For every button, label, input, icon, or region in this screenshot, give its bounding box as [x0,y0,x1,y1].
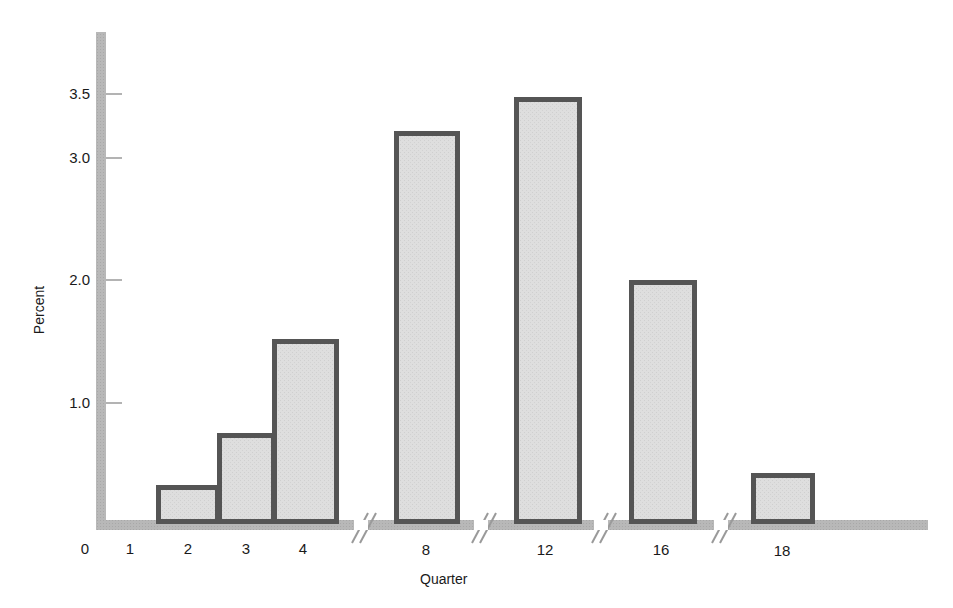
bar-chart: 1.0 2.0 3.0 3.5 Percent [0,0,953,608]
y-axis [96,32,106,530]
x-tick-label: 2 [184,540,192,557]
x-tick-label: 1 [126,540,134,557]
y-axis-title: Percent [31,286,47,334]
x-tick-label: 4 [299,540,307,557]
x-tick-label: 18 [774,542,791,559]
bar-q16 [632,283,695,522]
bar-q2 [159,488,218,522]
y-tick-label: 1.0 [69,394,90,411]
bar-q4 [275,342,337,522]
y-tick-label: 3.0 [69,149,90,166]
x-tick-label: 16 [653,541,670,558]
bars [159,100,813,522]
y-ticks: 1.0 2.0 3.0 3.5 [69,85,122,411]
x-ticks: 0 1 2 3 4 8 12 16 18 [81,540,791,559]
bar-q3 [220,436,274,522]
x-tick-label: 12 [537,541,554,558]
bar-q18 [754,476,813,522]
y-tick-label: 2.0 [69,271,90,288]
bar-q12 [517,100,580,522]
x-tick-label: 3 [242,540,250,557]
bar-q8 [397,134,458,522]
x-tick-label: 0 [81,540,89,557]
x-tick-label: 8 [422,541,430,558]
x-axis-title: Quarter [420,571,468,587]
y-tick-label: 3.5 [69,85,90,102]
